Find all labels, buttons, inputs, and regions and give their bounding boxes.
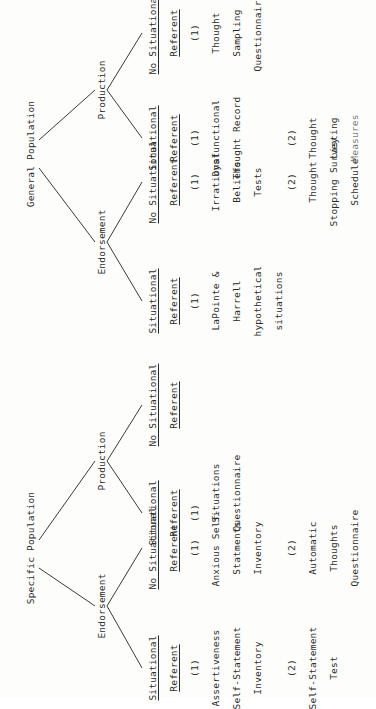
- branch-endorsement: Endorsement: [96, 209, 107, 274]
- group-number: (1): [189, 539, 200, 557]
- measure-line: Questionnaire: [349, 510, 360, 587]
- group-number: (1): [189, 24, 200, 42]
- measure-line: Measures: [349, 114, 360, 161]
- branch-production: Production: [96, 431, 107, 490]
- group-number: (1): [189, 173, 200, 191]
- column-heading: Referent: [168, 489, 179, 536]
- group-number: (1): [189, 292, 200, 310]
- group-number: (1): [189, 504, 200, 522]
- measure-line: Thought: [307, 117, 318, 158]
- measure-line: Harrell: [231, 280, 242, 321]
- measure-line: Questionnaire: [231, 455, 242, 532]
- measure-line: Test: [328, 656, 339, 680]
- measure-line: Dysfunctional: [210, 100, 221, 177]
- group-number: (2): [286, 173, 297, 191]
- measure-line: Sampling: [231, 9, 242, 56]
- measure-line: Inventory: [252, 641, 263, 694]
- measure-line: Schedule: [349, 158, 360, 205]
- measure-line: Self-Statement: [307, 627, 318, 709]
- measure-line: Questionnaire: [252, 0, 263, 71]
- group-number: (1): [189, 659, 200, 677]
- column-heading: Referent: [168, 277, 179, 324]
- tree-root-specific-population: Specific Population: [25, 492, 36, 604]
- measure-line: Inventory: [252, 521, 263, 574]
- group-number: (2): [286, 539, 297, 557]
- column-heading: Referent: [168, 114, 179, 161]
- column-heading: Situational: [147, 635, 158, 700]
- column-heading: Referent: [168, 644, 179, 691]
- measure-line: Thought: [307, 161, 318, 202]
- column-heading: Situational: [147, 480, 158, 545]
- group-number: (2): [286, 129, 297, 147]
- measure-line: Thoughts: [328, 524, 339, 571]
- group-number: (1): [189, 129, 200, 147]
- column-heading: Referent: [168, 381, 179, 428]
- measure-line: Self-Statement: [231, 627, 242, 709]
- column-heading: Referent: [168, 158, 179, 205]
- branch-production: Production: [96, 60, 107, 119]
- group-number: (2): [286, 659, 297, 677]
- column-heading: Referent: [168, 9, 179, 56]
- measure-line: Thought: [210, 12, 221, 53]
- measure-line: situations: [273, 271, 284, 330]
- measure-line: hypothetical: [252, 265, 263, 336]
- measure-line: Listing: [328, 117, 339, 158]
- column-heading: Situational: [147, 268, 158, 333]
- measure-line: Tests: [252, 167, 263, 197]
- measure-line: Automatic: [307, 521, 318, 574]
- measure-line: Thought Record: [231, 97, 242, 180]
- tree-root-general-population: General Population: [25, 101, 36, 208]
- column-heading: No Situational: [147, 364, 158, 447]
- measure-line: Assertiveness: [210, 630, 221, 707]
- column-heading: Situational: [147, 105, 158, 170]
- measure-line: LaPointe &: [210, 271, 221, 330]
- branch-endorsement: Endorsement: [96, 573, 107, 638]
- column-heading: No Situational: [147, 0, 158, 74]
- measure-line: Situations: [210, 463, 221, 522]
